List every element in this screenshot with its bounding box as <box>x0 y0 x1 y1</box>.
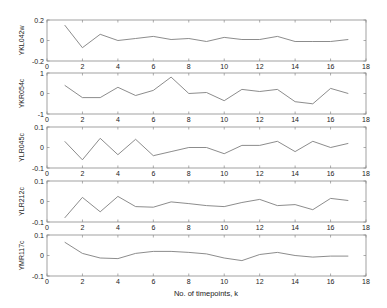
x-tick-label: 2 <box>80 63 84 70</box>
x-tick-label: 10 <box>220 278 228 285</box>
x-tick-label: 8 <box>187 116 191 123</box>
y-tick-label: -0.1 <box>32 165 44 172</box>
x-tick-label: 14 <box>291 278 299 285</box>
y-tick-label: 0.1 <box>34 178 44 185</box>
x-tick-label: 0 <box>45 63 49 70</box>
y-tick-label: 1 <box>40 70 44 77</box>
figure: 024681012141618-0.200.2YKL042w0246810121… <box>0 0 387 308</box>
y-tick-label: 0.1 <box>34 232 44 239</box>
x-tick-label: 6 <box>151 63 155 70</box>
x-tick-label: 6 <box>151 278 155 285</box>
subplot-ykr054c: 024681012141618-101YKR054c <box>18 70 370 124</box>
y-axis-label: YKL042w <box>18 25 25 56</box>
axes-box <box>47 73 366 114</box>
y-axis-label: YMR117c <box>18 240 25 271</box>
x-tick-label: 16 <box>327 278 335 285</box>
x-tick-label: 2 <box>80 278 84 285</box>
x-tick-label: 16 <box>327 63 335 70</box>
x-tick-label: 18 <box>362 170 370 177</box>
x-tick-label: 12 <box>256 63 264 70</box>
x-tick-label: 12 <box>256 224 264 231</box>
x-tick-label: 18 <box>362 63 370 70</box>
x-tick-label: 0 <box>45 278 49 285</box>
y-axis-label: YLR212c <box>18 187 25 216</box>
y-tick-label: -0.1 <box>32 219 44 226</box>
subplot-ylr212c: 024681012141618-0.100.1YLR212c <box>18 178 370 232</box>
x-tick-label: 2 <box>80 116 84 123</box>
axes-box <box>47 20 366 61</box>
y-tick-label: -1 <box>38 111 44 118</box>
y-axis-label: YKR054c <box>18 78 25 108</box>
x-tick-label: 0 <box>45 170 49 177</box>
x-tick-label: 4 <box>116 224 120 231</box>
x-tick-label: 16 <box>327 170 335 177</box>
x-tick-label: 18 <box>362 116 370 123</box>
x-tick-label: 6 <box>151 224 155 231</box>
subplot-ylr045c: 024681012141618-0.100.1YLR045c <box>18 124 370 178</box>
x-tick-label: 10 <box>220 170 228 177</box>
x-tick-label: 12 <box>256 170 264 177</box>
x-tick-label: 8 <box>187 278 191 285</box>
x-tick-label: 10 <box>220 63 228 70</box>
x-tick-label: 14 <box>291 116 299 123</box>
y-tick-label: -0.2 <box>32 58 44 65</box>
x-tick-label: 8 <box>187 224 191 231</box>
y-tick-label: -0.1 <box>32 273 44 280</box>
axes-box <box>47 235 366 276</box>
x-tick-label: 14 <box>291 63 299 70</box>
x-tick-label: 6 <box>151 116 155 123</box>
x-tick-label: 2 <box>80 224 84 231</box>
subplot-ykl042w: 024681012141618-0.200.2YKL042w <box>18 17 370 71</box>
x-tick-label: 10 <box>220 116 228 123</box>
subplots: 024681012141618-0.200.2YKL042w0246810121… <box>18 17 370 286</box>
x-axis-label: No. of timepoints, k <box>174 289 238 298</box>
x-tick-label: 16 <box>327 224 335 231</box>
y-tick-label: 0 <box>40 198 44 205</box>
x-tick-label: 0 <box>45 224 49 231</box>
x-tick-label: 14 <box>291 224 299 231</box>
x-tick-label: 4 <box>116 116 120 123</box>
x-tick-label: 6 <box>151 170 155 177</box>
x-tick-label: 18 <box>362 224 370 231</box>
x-tick-label: 4 <box>116 63 120 70</box>
x-tick-label: 14 <box>291 170 299 177</box>
y-tick-label: 0 <box>40 252 44 259</box>
y-tick-label: 0 <box>40 144 44 151</box>
x-tick-label: 8 <box>187 63 191 70</box>
y-tick-label: 0 <box>40 90 44 97</box>
y-tick-label: 0.1 <box>34 124 44 131</box>
x-tick-label: 10 <box>220 224 228 231</box>
x-tick-label: 16 <box>327 116 335 123</box>
x-tick-label: 12 <box>256 278 264 285</box>
x-tick-label: 4 <box>116 170 120 177</box>
y-axis-label: YLR045c <box>18 133 25 162</box>
x-tick-label: 2 <box>80 170 84 177</box>
subplot-ymr117c: 024681012141618-0.100.1YMR117c <box>18 232 370 286</box>
x-tick-label: 8 <box>187 170 191 177</box>
x-tick-label: 4 <box>116 278 120 285</box>
y-tick-label: 0.2 <box>34 17 44 24</box>
x-tick-label: 12 <box>256 116 264 123</box>
x-tick-label: 0 <box>45 116 49 123</box>
y-tick-label: 0 <box>40 37 44 44</box>
axes-box <box>47 181 366 222</box>
x-tick-label: 18 <box>362 278 370 285</box>
